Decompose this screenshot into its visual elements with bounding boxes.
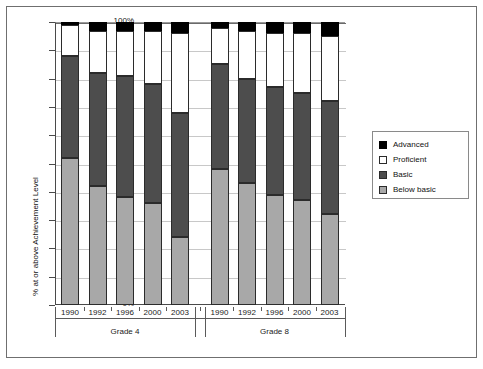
bar-segment-proficient[interactable] xyxy=(61,25,79,56)
bar-grade-8-2000[interactable] xyxy=(293,22,311,305)
bar-segment-proficient[interactable] xyxy=(211,28,229,65)
legend-label: Basic xyxy=(393,170,413,179)
legend-swatch-basic-icon xyxy=(379,171,387,179)
bar-segment-proficient[interactable] xyxy=(293,33,311,92)
bar-segment-advanced[interactable] xyxy=(266,22,284,33)
bar-segment-belowbasic[interactable] xyxy=(321,214,339,305)
legend-item-advanced[interactable]: Advanced xyxy=(379,137,468,152)
y-axis-title: % at or above Achievement Level xyxy=(31,152,40,322)
bar-grade-4-1992[interactable] xyxy=(89,22,107,305)
bar-segment-basic[interactable] xyxy=(238,79,256,184)
bar-segment-basic[interactable] xyxy=(211,64,229,169)
y-axis-title-holder: % at or above Achievement Level xyxy=(10,100,24,260)
bar-segment-basic[interactable] xyxy=(171,113,189,238)
bar-series-container xyxy=(55,22,345,305)
bar-segment-belowbasic[interactable] xyxy=(116,197,134,305)
bar-segment-belowbasic[interactable] xyxy=(171,237,189,305)
x-tick-mark xyxy=(200,307,201,311)
bar-grade-4-1996[interactable] xyxy=(116,22,134,305)
bar-segment-advanced[interactable] xyxy=(321,22,339,36)
bar-segment-proficient[interactable] xyxy=(89,31,107,73)
plot-wrapper: % at or above Achievement Level 0%10%20%… xyxy=(0,0,483,369)
x-tick-label: 2003 xyxy=(165,308,195,318)
bar-segment-basic[interactable] xyxy=(61,56,79,158)
bar-segment-basic[interactable] xyxy=(321,101,339,214)
bar-grade-4-1990[interactable] xyxy=(61,22,79,305)
bar-segment-belowbasic[interactable] xyxy=(293,200,311,305)
bar-segment-advanced[interactable] xyxy=(144,22,162,30)
bar-segment-proficient[interactable] xyxy=(266,33,284,87)
bar-segment-advanced[interactable] xyxy=(171,22,189,33)
bar-grade-8-1990[interactable] xyxy=(211,22,229,305)
bar-segment-belowbasic[interactable] xyxy=(238,183,256,305)
chart-page: % at or above Achievement Level 0%10%20%… xyxy=(0,0,483,369)
group-separator xyxy=(345,307,346,337)
x-tick-label: 1990 xyxy=(55,308,85,318)
bar-segment-proficient[interactable] xyxy=(321,36,339,101)
group-separator xyxy=(205,307,206,337)
x-tick-label: 1990 xyxy=(205,308,235,318)
bar-segment-advanced[interactable] xyxy=(238,22,256,30)
bar-segment-advanced[interactable] xyxy=(89,22,107,30)
x-tick-label: 1996 xyxy=(260,308,290,318)
bar-segment-belowbasic[interactable] xyxy=(266,195,284,305)
bar-segment-proficient[interactable] xyxy=(144,31,162,85)
legend-label: Proficient xyxy=(393,155,426,164)
bar-grade-8-2003[interactable] xyxy=(321,22,339,305)
bar-segment-belowbasic[interactable] xyxy=(144,203,162,305)
bar-grade-8-1992[interactable] xyxy=(238,22,256,305)
x-tick-label: 2003 xyxy=(315,308,345,318)
group-label-grade-8: Grade 8 xyxy=(205,327,345,337)
bar-segment-proficient[interactable] xyxy=(238,31,256,79)
legend-swatch-advanced-icon xyxy=(379,141,387,149)
bar-segment-basic[interactable] xyxy=(144,84,162,203)
bar-grade-4-2003[interactable] xyxy=(171,22,189,305)
bar-segment-proficient[interactable] xyxy=(116,31,134,76)
bar-segment-belowbasic[interactable] xyxy=(89,186,107,305)
x-tick-label: 2000 xyxy=(138,308,168,318)
bar-segment-belowbasic[interactable] xyxy=(61,158,79,305)
group-label-grade-4: Grade 4 xyxy=(55,327,195,337)
x-tick-label: 1992 xyxy=(232,308,262,318)
legend-item-basic[interactable]: Basic xyxy=(379,167,468,182)
x-tick-label: 1996 xyxy=(110,308,140,318)
bar-segment-advanced[interactable] xyxy=(116,22,134,30)
x-axis-rule xyxy=(55,318,345,319)
bar-segment-proficient[interactable] xyxy=(171,33,189,112)
legend-item-belowbasic[interactable]: Below basic xyxy=(379,182,468,197)
legend: AdvancedProficientBasicBelow basic xyxy=(372,131,469,199)
legend-swatch-belowbasic-icon xyxy=(379,186,387,194)
legend-swatch-proficient-icon xyxy=(379,156,387,164)
bar-grade-4-2000[interactable] xyxy=(144,22,162,305)
group-separator xyxy=(55,307,56,337)
bar-segment-basic[interactable] xyxy=(89,73,107,186)
bar-grade-8-1996[interactable] xyxy=(266,22,284,305)
bar-segment-basic[interactable] xyxy=(266,87,284,195)
bar-segment-belowbasic[interactable] xyxy=(211,169,229,305)
y-tick-mark xyxy=(49,305,55,306)
legend-label: Below basic xyxy=(393,185,436,194)
legend-label: Advanced xyxy=(393,140,429,149)
group-separator xyxy=(195,307,196,337)
bar-segment-basic[interactable] xyxy=(116,76,134,198)
x-tick-label: 2000 xyxy=(287,308,317,318)
legend-item-proficient[interactable]: Proficient xyxy=(379,152,468,167)
bar-segment-basic[interactable] xyxy=(293,93,311,201)
bar-segment-advanced[interactable] xyxy=(293,22,311,33)
x-tick-label: 1992 xyxy=(83,308,113,318)
